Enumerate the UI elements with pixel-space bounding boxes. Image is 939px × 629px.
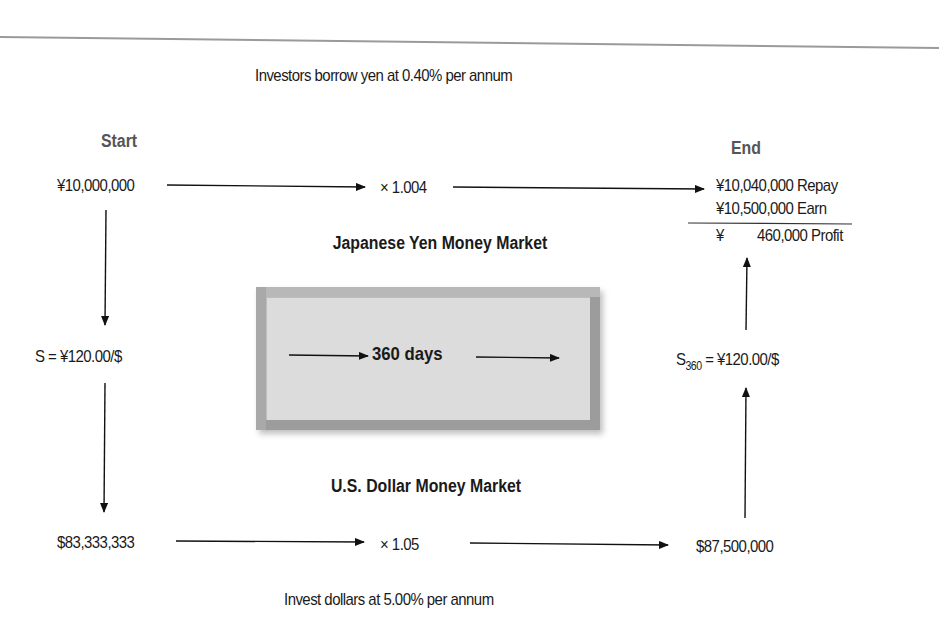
dollar-multiplier: × 1.05 <box>380 535 419 555</box>
period-label: 360 days <box>372 343 443 365</box>
bottom-note: Invest dollars at 5.00% per annum <box>284 590 494 610</box>
future-rate-value: = ¥120.00/$ <box>702 350 779 369</box>
future-rate-symbol: S <box>676 350 685 369</box>
end-dollar-amount: $87,500,000 <box>696 537 773 557</box>
period-arrow-left <box>289 355 368 356</box>
period-box-arrows <box>0 0 939 629</box>
period-arrow-right <box>476 357 559 358</box>
future-rate-subscript: 360 <box>685 359 701 373</box>
dollar-market-label: U.S. Dollar Money Market <box>331 476 521 497</box>
future-spot-rate: S360 = ¥120.00/$ <box>676 350 779 373</box>
start-dollar-amount: $83,333,333 <box>57 533 134 553</box>
